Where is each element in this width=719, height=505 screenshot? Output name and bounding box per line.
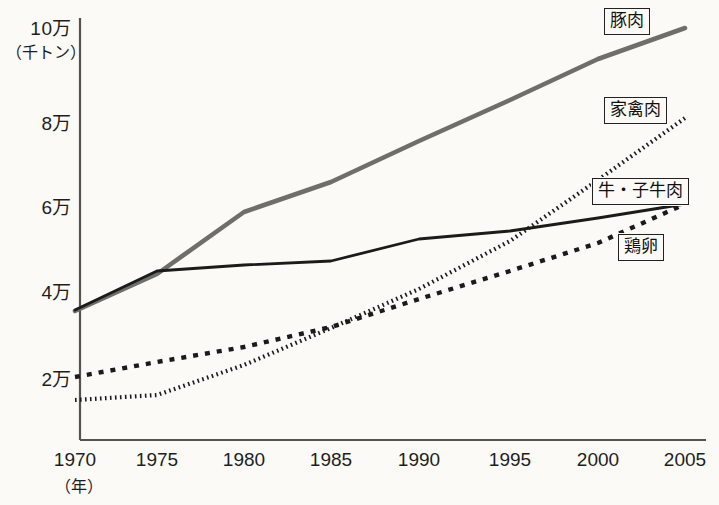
x-tick-label-1985: 1985 (291, 449, 371, 471)
chart-plot-area (0, 0, 719, 505)
legend-label-eggs: 鶏卵 (618, 234, 664, 261)
x-tick-label-1970: 1970 (35, 449, 115, 471)
x-tick-label-2000: 2000 (558, 449, 638, 471)
x-tick-label-1990: 1990 (379, 449, 459, 471)
legend-label-beef: 牛・子牛肉 (592, 178, 689, 205)
series-line-eggs (75, 204, 685, 377)
x-tick-label-1995: 1995 (470, 449, 550, 471)
legend-label-pork: 豚肉 (604, 8, 650, 35)
line-chart-figure: 10万 （千トン） 8万 6万 4万 2万 豚肉 家禽肉 牛・子牛肉 鶏卵 19… (0, 0, 719, 505)
legend-label-poultry: 家禽肉 (604, 97, 667, 124)
x-axis-unit-label: （年） (55, 473, 103, 497)
x-tick-label-1980: 1980 (204, 449, 284, 471)
x-tick-label-1975: 1975 (117, 449, 197, 471)
series-line-pork (75, 28, 685, 311)
series-line-beef (75, 204, 685, 310)
x-tick-label-2005: 2005 (645, 449, 719, 471)
